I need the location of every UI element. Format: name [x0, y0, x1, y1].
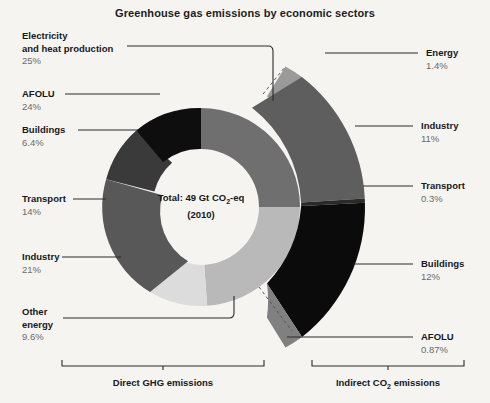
label-buildings-right-name: Buildings	[421, 258, 464, 271]
label-afolu-right-pct: 0.87%	[421, 344, 454, 357]
label-buildings-left[interactable]: Buildings 6.4%	[22, 124, 65, 149]
label-transport-right[interactable]: Transport 0.3%	[421, 180, 465, 205]
label-energy-right[interactable]: Energy 1.4%	[426, 47, 458, 72]
label-afolu-left-pct: 24%	[22, 101, 55, 114]
label-transport-left-name: Transport	[22, 193, 66, 206]
label-other-energy[interactable]: Other energy 9.6%	[22, 306, 53, 344]
label-transport-right-pct: 0.3%	[421, 193, 465, 206]
label-buildings-left-name: Buildings	[22, 124, 65, 137]
donut-center-line2: (2010)	[131, 208, 271, 221]
chart-canvas: Greenhouse gas emissions by economic sec…	[0, 0, 490, 403]
label-other-energy-pct: 9.6%	[22, 331, 53, 344]
label-industry-left[interactable]: Industry 21%	[22, 251, 59, 276]
label-other-energy-name: Other	[22, 306, 53, 319]
label-energy-right-name: Energy	[426, 47, 458, 60]
donut-center-line1: Total: 49 Gt CO2-eq	[131, 191, 271, 208]
caption-indirect: Indirect CO2 emissions	[328, 377, 448, 390]
label-other-energy-name2: energy	[22, 319, 53, 332]
label-electricity[interactable]: Electricity and heat production 25%	[22, 30, 113, 68]
label-electricity-name: Electricity	[22, 30, 113, 43]
label-afolu-left-name: AFOLU	[22, 88, 55, 101]
label-transport-left-pct: 14%	[22, 206, 66, 219]
label-afolu-right[interactable]: AFOLU 0.87%	[421, 331, 454, 356]
caption-indirect-pre: Indirect CO	[336, 377, 387, 388]
donut-center-line1-post: -eq	[230, 192, 244, 203]
label-transport-left[interactable]: Transport 14%	[22, 193, 66, 218]
bracket-indirect	[312, 360, 464, 370]
label-buildings-right[interactable]: Buildings 12%	[421, 258, 464, 283]
label-industry-left-pct: 21%	[22, 264, 59, 277]
label-electricity-name2: and heat production	[22, 43, 113, 56]
label-industry-left-name: Industry	[22, 251, 59, 264]
bottom-brackets	[62, 360, 464, 370]
caption-indirect-post: emissions	[391, 377, 440, 388]
donut-center-total: Total: 49 Gt CO2-eq (2010)	[131, 191, 271, 221]
label-electricity-pct: 25%	[22, 55, 113, 68]
leader-electricity	[127, 46, 273, 101]
label-afolu-left[interactable]: AFOLU 24%	[22, 88, 55, 113]
bracket-direct	[62, 360, 264, 370]
label-buildings-right-pct: 12%	[421, 271, 464, 284]
label-energy-right-pct: 1.4%	[426, 60, 458, 73]
label-industry-right[interactable]: Industry 11%	[421, 120, 458, 145]
label-transport-right-name: Transport	[421, 180, 465, 193]
label-industry-right-name: Industry	[421, 120, 458, 133]
label-industry-right-pct: 11%	[421, 133, 458, 146]
caption-direct: Direct GHG emissions	[103, 377, 223, 388]
label-buildings-left-pct: 6.4%	[22, 137, 65, 150]
donut-center-line1-pre: Total: 49 Gt CO	[158, 192, 226, 203]
label-afolu-right-name: AFOLU	[421, 331, 454, 344]
